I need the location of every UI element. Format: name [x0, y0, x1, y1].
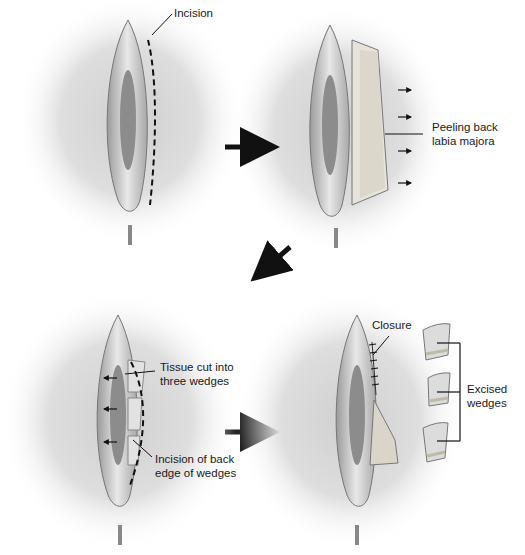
panel-3-wedges [0, 290, 240, 550]
label-closure: Closure [372, 318, 412, 332]
label-tissue-wedges: Tissue cut into three wedges [160, 360, 234, 388]
label-incision: Incision [174, 6, 213, 20]
excised-wedge-2 [428, 373, 450, 406]
excised-wedge-1 [423, 324, 450, 360]
arrow-2-to-3 [258, 247, 290, 275]
panel-2-peeling [230, 5, 450, 255]
label-back-edge-incision: Incision of back edge of wedges [155, 452, 236, 480]
diagram-canvas [0, 0, 525, 555]
excised-wedge-3 [423, 423, 448, 462]
label-peeling-back: Peeling back labia majora [432, 120, 498, 148]
label-excised-wedges: Excised wedges [467, 382, 507, 410]
panel-4-closure [235, 290, 465, 550]
panel-1-incision [15, 0, 245, 245]
